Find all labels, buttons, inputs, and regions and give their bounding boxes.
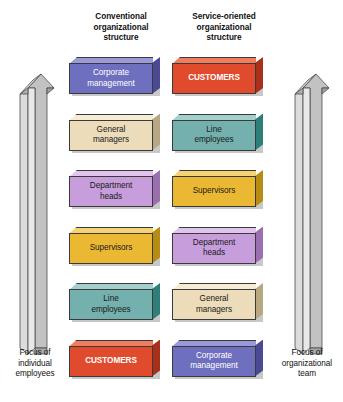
box-front-face: CUSTOMERS xyxy=(172,63,256,94)
box-label-line-2: managers xyxy=(93,135,129,145)
box-side-face xyxy=(152,227,160,264)
up-arrow-icon-left xyxy=(6,58,62,358)
column-conventional: CorporatemanagementGeneralmanagersDepart… xyxy=(69,55,173,394)
box-slot: Corporatemanagement xyxy=(69,55,173,112)
box-label-line-1: CUSTOMERS xyxy=(188,73,240,83)
box-label: Lineemployees xyxy=(88,294,133,315)
box-label-line-2: employees xyxy=(194,135,233,145)
box-front-face: Corporatemanagement xyxy=(69,63,153,94)
box-label-line-1: CUSTOMERS xyxy=(85,356,137,366)
box-label: Lineemployees xyxy=(191,125,236,146)
box-front-face: CUSTOMERS xyxy=(69,346,153,377)
header-line-1: Conventional xyxy=(69,12,173,23)
header-line-2: organizational xyxy=(69,23,173,34)
caption-line-1: Focus of xyxy=(0,348,74,359)
org-level-box[interactable]: Lineemployees xyxy=(172,114,258,152)
box-label: Generalmanagers xyxy=(90,125,132,146)
box-slot: Departmentheads xyxy=(69,168,173,225)
box-label-line-1: General xyxy=(196,294,232,304)
box-label: Corporatemanagement xyxy=(187,351,240,372)
org-level-box[interactable]: Generalmanagers xyxy=(69,114,155,152)
box-label-line-2: management xyxy=(87,79,134,89)
box-side-face xyxy=(255,114,263,151)
box-front-face: Generalmanagers xyxy=(69,120,153,151)
org-level-box[interactable]: CUSTOMERS xyxy=(172,57,258,95)
organizational-structure-diagram: Conventional organizational structure Se… xyxy=(0,0,343,402)
box-label-line-1: General xyxy=(93,125,129,135)
box-label: CUSTOMERS xyxy=(185,73,243,83)
box-label: Departmentheads xyxy=(190,238,238,259)
box-slot: CUSTOMERS xyxy=(69,338,173,395)
box-slot: Lineemployees xyxy=(172,112,276,169)
box-label: Supervisors xyxy=(87,243,136,253)
header-line-3: structure xyxy=(172,33,276,44)
box-side-face xyxy=(152,114,160,151)
caption-line-2: individual xyxy=(0,359,74,370)
box-side-face xyxy=(152,170,160,207)
box-side-face xyxy=(255,170,263,207)
box-slot: Generalmanagers xyxy=(69,112,173,169)
header-line-2: organizational xyxy=(172,23,276,34)
arrow-caption-right: Focus of organizational team xyxy=(268,348,343,380)
box-slot: Supervisors xyxy=(172,168,276,225)
box-label-line-1: Department xyxy=(90,181,132,191)
caption-line-1: Focus of xyxy=(268,348,343,359)
box-side-face xyxy=(255,340,263,377)
box-slot: Generalmanagers xyxy=(172,281,276,338)
box-front-face: Lineemployees xyxy=(172,120,256,151)
box-slot: CUSTOMERS xyxy=(172,55,276,112)
box-side-face xyxy=(255,57,263,94)
column-service-oriented: CUSTOMERSLineemployeesSupervisorsDepartm… xyxy=(172,55,276,394)
caption-line-3: team xyxy=(268,369,343,380)
box-front-face: Departmentheads xyxy=(172,233,256,264)
box-slot: Supervisors xyxy=(69,225,173,282)
header-line-1: Service-oriented xyxy=(172,12,276,23)
box-label-line-1: Supervisors xyxy=(193,186,236,196)
box-side-face xyxy=(255,227,263,264)
box-slot: Lineemployees xyxy=(69,281,173,338)
box-label: Supervisors xyxy=(190,186,239,196)
box-label-line-2: managers xyxy=(196,305,232,315)
box-label-line-1: Corporate xyxy=(87,68,134,78)
box-label-line-2: employees xyxy=(91,305,130,315)
box-label: Corporatemanagement xyxy=(84,68,137,89)
org-level-box[interactable]: Departmentheads xyxy=(172,227,258,265)
org-level-box[interactable]: Lineemployees xyxy=(69,283,155,321)
box-label-line-1: Department xyxy=(193,238,235,248)
box-front-face: Generalmanagers xyxy=(172,289,256,320)
org-level-box[interactable]: CUSTOMERS xyxy=(69,340,155,378)
box-label-line-1: Line xyxy=(91,294,130,304)
box-label: Departmentheads xyxy=(87,181,135,202)
org-level-box[interactable]: Generalmanagers xyxy=(172,283,258,321)
box-front-face: Lineemployees xyxy=(69,289,153,320)
box-front-face: Departmentheads xyxy=(69,176,153,207)
org-level-box[interactable]: Departmentheads xyxy=(69,170,155,208)
box-side-face xyxy=(255,283,263,320)
org-level-box[interactable]: Supervisors xyxy=(69,227,155,265)
box-label-line-2: heads xyxy=(193,248,235,258)
org-level-box[interactable]: Corporatemanagement xyxy=(69,57,155,95)
box-label-line-2: management xyxy=(190,361,237,371)
up-arrow-icon-right xyxy=(281,58,337,358)
box-side-face xyxy=(152,283,160,320)
org-level-box[interactable]: Corporatemanagement xyxy=(172,340,258,378)
box-front-face: Supervisors xyxy=(69,233,153,264)
box-slot: Corporatemanagement xyxy=(172,338,276,395)
header-line-3: structure xyxy=(69,33,173,44)
box-front-face: Supervisors xyxy=(172,176,256,207)
box-label: Generalmanagers xyxy=(193,294,235,315)
box-label: CUSTOMERS xyxy=(82,356,140,366)
arrow-caption-left: Focus of individual employees xyxy=(0,348,74,380)
caption-line-2: organizational xyxy=(268,359,343,370)
column-header-conventional: Conventional organizational structure xyxy=(69,12,173,44)
org-level-box[interactable]: Supervisors xyxy=(172,170,258,208)
box-slot: Departmentheads xyxy=(172,225,276,282)
caption-line-3: employees xyxy=(0,369,74,380)
box-label-line-2: heads xyxy=(90,192,132,202)
column-header-service-oriented: Service-oriented organizational structur… xyxy=(172,12,276,44)
box-side-face xyxy=(152,340,160,377)
box-front-face: Corporatemanagement xyxy=(172,346,256,377)
box-label-line-1: Line xyxy=(194,125,233,135)
box-side-face xyxy=(152,57,160,94)
box-label-line-1: Supervisors xyxy=(90,243,133,253)
